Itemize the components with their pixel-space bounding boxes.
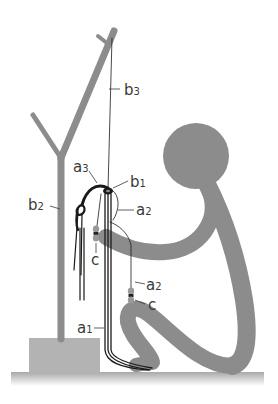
figure-head [163, 123, 229, 189]
thread-b3 [108, 38, 112, 190]
bobbin-left [93, 226, 99, 242]
label-b2: b2 [28, 196, 44, 214]
seated-figure [106, 123, 247, 366]
label-a3: a3 [73, 158, 89, 176]
floor [11, 372, 264, 386]
diagram-canvas: b3 a3 b1 b2 a2 c a2 c a1 [0, 0, 278, 404]
label-b3: b3 [124, 81, 140, 99]
box [29, 338, 100, 373]
label-b1: b1 [130, 173, 146, 191]
label-a2-lower: a2 [146, 276, 162, 294]
label-c-left: c [91, 251, 99, 269]
label-a2-upper: a2 [136, 201, 152, 219]
label-c-right: c [148, 296, 156, 314]
bobbin-right [128, 288, 134, 304]
label-a1: a1 [77, 319, 93, 337]
